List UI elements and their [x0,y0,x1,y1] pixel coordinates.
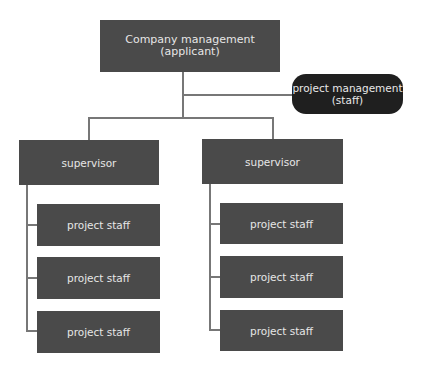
node-sublabel: (applicant) [160,46,219,58]
node-label: project staff [67,219,130,231]
node-label: project staff [250,325,313,337]
connector-root-side [182,94,292,96]
node-label: project staff [67,326,130,338]
node-right-staff-2: project staff [220,256,343,298]
node-supervisor-left: supervisor [19,140,159,185]
connector-left-staff-spine [26,185,28,332]
node-project-management: project management (staff) [292,74,403,114]
connector-right-staff-spine [209,184,211,331]
node-right-staff-3: project staff [220,310,343,351]
connector-left-supervisor [88,117,90,140]
node-label: project staff [250,218,313,230]
connector-branch-bar [88,117,274,119]
node-left-staff-2: project staff [37,257,160,299]
node-sublabel: (staff) [332,94,363,106]
node-left-staff-1: project staff [37,204,160,246]
connector-right-supervisor [272,117,274,140]
node-label: project management [292,82,402,94]
node-label: supervisor [245,156,300,168]
node-label: supervisor [62,157,117,169]
node-company-management: Company management (applicant) [100,20,280,72]
node-label: project staff [67,272,130,284]
node-supervisor-right: supervisor [202,139,343,184]
node-left-staff-3: project staff [37,311,160,353]
node-label: project staff [250,271,313,283]
node-right-staff-1: project staff [220,203,343,244]
